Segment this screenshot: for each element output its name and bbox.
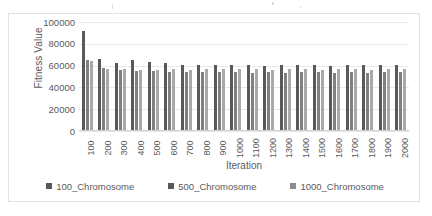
legend-label: 1000_Chromosome: [300, 181, 383, 192]
bar-1000_chromosome: [172, 69, 175, 131]
bar-500_chromosome: [300, 72, 303, 131]
bar-100_chromosome: [115, 63, 118, 131]
bar-100_chromosome: [148, 62, 151, 131]
bar-500_chromosome: [350, 72, 353, 131]
legend-swatch-icon: [46, 183, 52, 189]
bar-500_chromosome: [218, 72, 221, 131]
bar-500_chromosome: [86, 60, 89, 131]
bar-group: [96, 22, 113, 131]
bar-500_chromosome: [399, 72, 402, 131]
bar-group: [178, 22, 195, 131]
bar-group: [162, 22, 179, 131]
legend-item[interactable]: 500_Chromosome: [168, 181, 256, 192]
bar-100_chromosome: [164, 63, 167, 131]
y-axis-tick-label: 100000: [25, 18, 75, 28]
bar-500_chromosome: [135, 71, 138, 131]
bar-500_chromosome: [366, 73, 369, 131]
bar-group: [244, 22, 261, 131]
scan-speck: [272, 2, 274, 5]
bar-group: [310, 22, 327, 131]
bar-500_chromosome: [251, 73, 254, 131]
bar-100_chromosome: [230, 65, 233, 131]
bar-group: [261, 22, 278, 131]
bar-100_chromosome: [395, 65, 398, 131]
legend-item[interactable]: 100_Chromosome: [46, 181, 134, 192]
bar-500_chromosome: [284, 73, 287, 131]
legend-label: 100_Chromosome: [56, 181, 134, 192]
bar-100_chromosome: [131, 60, 134, 131]
x-axis-tick-label: 2000: [401, 138, 410, 158]
bar-1000_chromosome: [189, 70, 192, 131]
bar-group: [228, 22, 245, 131]
bar-1000_chromosome: [370, 70, 373, 131]
bar-group: [211, 22, 228, 131]
x-axis-title: Iteration: [79, 160, 409, 171]
bar-group: [393, 22, 410, 131]
legend-label: 500_Chromosome: [178, 181, 256, 192]
bar-series-container: [79, 22, 409, 131]
bar-1000_chromosome: [139, 70, 142, 131]
bar-500_chromosome: [383, 72, 386, 131]
bar-100_chromosome: [82, 31, 85, 131]
bar-group: [79, 22, 96, 131]
axis-baseline: [79, 130, 409, 131]
bar-group: [327, 22, 344, 131]
bar-group: [376, 22, 393, 131]
bar-1000_chromosome: [255, 69, 258, 131]
y-axis-tick-label: 60000: [25, 61, 75, 71]
bar-1000_chromosome: [205, 69, 208, 131]
bar-100_chromosome: [181, 65, 184, 131]
bar-1000_chromosome: [321, 70, 324, 131]
bar-500_chromosome: [152, 71, 155, 131]
bar-1000_chromosome: [403, 69, 406, 131]
plot-area: [79, 22, 409, 131]
bar-1000_chromosome: [156, 70, 159, 131]
bar-100_chromosome: [296, 65, 299, 131]
bar-1000_chromosome: [271, 70, 274, 131]
bar-500_chromosome: [185, 72, 188, 131]
bar-1000_chromosome: [222, 69, 225, 131]
scan-speck: [300, 6, 301, 8]
bar-500_chromosome: [317, 72, 320, 131]
bar-1000_chromosome: [354, 69, 357, 131]
bar-group: [112, 22, 129, 131]
bar-100_chromosome: [280, 65, 283, 131]
bar-1000_chromosome: [123, 69, 126, 131]
y-axis-tick-label: 20000: [25, 105, 75, 115]
bar-500_chromosome: [234, 72, 237, 131]
bar-group: [360, 22, 377, 131]
bar-500_chromosome: [119, 70, 122, 131]
bar-100_chromosome: [214, 65, 217, 131]
bar-1000_chromosome: [304, 69, 307, 131]
bar-100_chromosome: [98, 59, 101, 131]
bar-500_chromosome: [333, 73, 336, 131]
chart-frame: Fitness Value 10000080000600004000020000…: [8, 13, 420, 202]
bar-100_chromosome: [379, 65, 382, 131]
bar-1000_chromosome: [337, 69, 340, 131]
y-axis-tick-label: 80000: [25, 39, 75, 49]
scan-artifact-speckles: [0, 0, 432, 13]
gridline: [79, 131, 409, 132]
bar-100_chromosome: [346, 65, 349, 131]
bar-1000_chromosome: [288, 69, 291, 131]
chart-legend: 100_Chromosome500_Chromosome1000_Chromos…: [9, 177, 421, 195]
bar-500_chromosome: [201, 72, 204, 131]
bar-1000_chromosome: [238, 69, 241, 131]
bar-100_chromosome: [362, 65, 365, 131]
bar-group: [343, 22, 360, 131]
bar-group: [195, 22, 212, 131]
bar-100_chromosome: [247, 65, 250, 131]
legend-item[interactable]: 1000_Chromosome: [290, 181, 383, 192]
bar-100_chromosome: [263, 66, 266, 131]
y-axis-tick-labels: 100000800006000040000200000: [25, 22, 75, 132]
bar-group: [129, 22, 146, 131]
y-axis-tick-label: 40000: [25, 83, 75, 93]
bar-100_chromosome: [329, 66, 332, 131]
bar-group: [294, 22, 311, 131]
bar-1000_chromosome: [90, 61, 93, 131]
scan-speck: [112, 4, 113, 9]
bar-1000_chromosome: [387, 69, 390, 131]
legend-swatch-icon: [168, 183, 174, 189]
bar-1000_chromosome: [106, 69, 109, 131]
bar-100_chromosome: [313, 65, 316, 131]
